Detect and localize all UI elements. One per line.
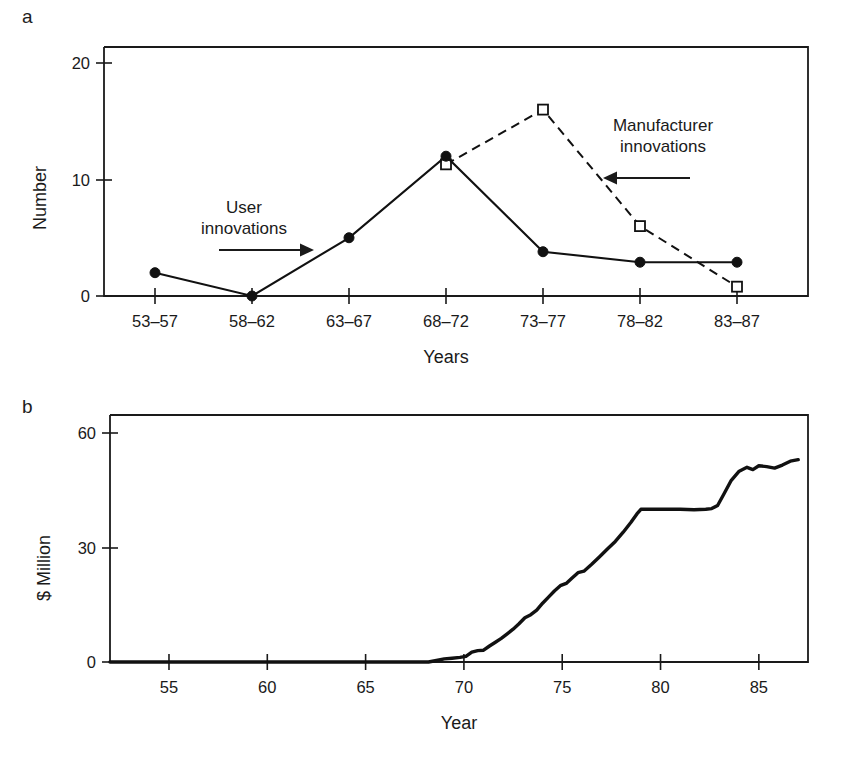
y-ticklabel-0: 0 [81,287,90,305]
x-ticklabel-85: 85 [750,678,768,696]
data-point-marker [344,233,354,243]
y-axis-b: 0 30 60 [78,424,118,671]
y-ticklabel-0: 0 [87,653,96,671]
chart-panel-b: 0 30 60 $ Million 55606570758085 Year [0,386,844,766]
data-point-marker [150,268,160,278]
annotation-user-line2: innovations [201,219,287,238]
x-ticklabel-0: 53–57 [132,312,178,330]
data-point-marker [732,282,742,292]
annotation-manuf-line2: innovations [620,137,706,156]
y-ticklabel-10: 10 [72,171,90,189]
x-ticklabel-6: 83–87 [714,312,760,330]
series-line-cumulative-sales [110,460,798,662]
x-ticklabel-2: 63–67 [326,312,372,330]
x-ticklabel-4: 73–77 [520,312,566,330]
data-point-marker [538,247,548,257]
y-axis-title-a: Number [30,166,50,230]
x-axis-title-b: Year [441,713,477,733]
data-point-marker [635,257,645,267]
y-axis-title-b: $ Million [34,535,54,601]
plot-frame-b [110,415,808,662]
annotation-user-innovations: User innovations [201,198,314,257]
y-ticklabel-60: 60 [78,424,96,442]
x-ticklabel-80: 80 [651,678,669,696]
x-ticklabel-3: 68–72 [423,312,469,330]
data-point-marker [635,221,645,231]
figure-container: a b 0 10 20 Number 53–57 58–62 63–67 [0,0,844,766]
annotation-user-line1: User [226,198,262,217]
data-point-marker [441,151,451,161]
arrow-left-head-icon [603,172,617,185]
x-ticklabel-70: 70 [455,678,473,696]
plot-frame-a [104,47,808,296]
data-point-marker [732,257,742,267]
x-axis-a: 53–57 58–62 63–67 68–72 73–77 78–82 83–8… [132,288,760,330]
x-ticklabel-60: 60 [258,678,276,696]
data-point-marker [538,105,548,115]
arrow-right-head-icon [300,244,314,257]
x-ticklabel-1: 58–62 [229,312,275,330]
data-point-marker [247,291,257,301]
x-ticklabel-5: 78–82 [617,312,663,330]
annotation-manuf-line1: Manufacturer [613,116,713,135]
x-ticklabel-75: 75 [553,678,571,696]
y-axis-a: 0 10 20 [72,54,112,305]
annotation-manufacturer-innovations: Manufacturer innovations [603,116,713,185]
y-ticklabel-30: 30 [78,539,96,557]
x-ticklabel-65: 65 [356,678,374,696]
x-axis-title-a: Years [423,347,468,367]
y-ticklabel-20: 20 [72,54,90,72]
chart-panel-a: 0 10 20 Number 53–57 58–62 63–67 68–72 7… [0,0,844,390]
x-ticklabel-55: 55 [160,678,178,696]
